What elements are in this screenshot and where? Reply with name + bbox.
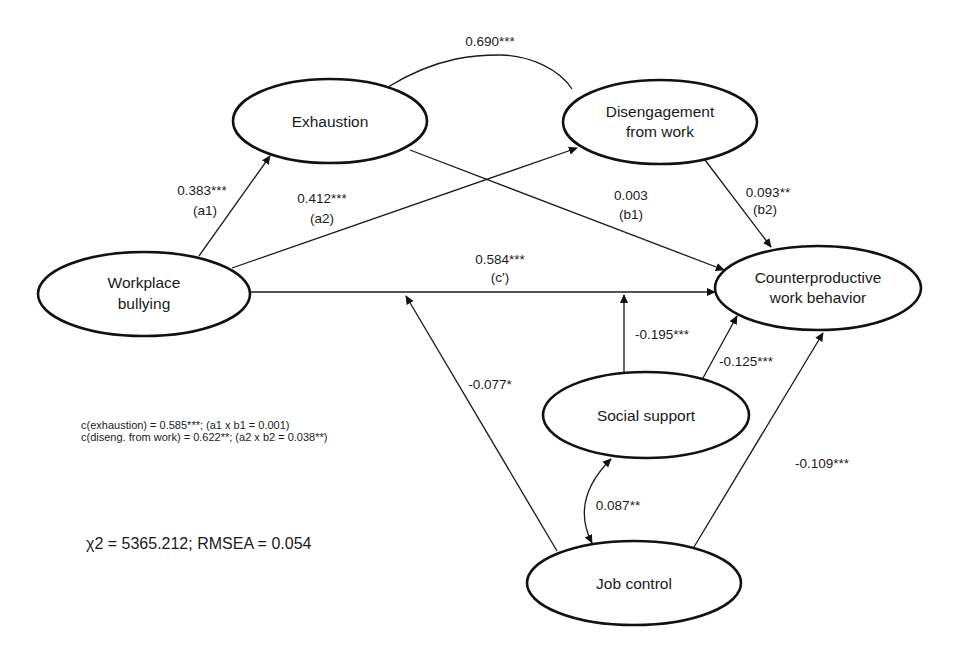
edge-a2-bullying-to-disengagement — [232, 148, 577, 268]
node-exhaustion: Exhaustion — [233, 79, 427, 163]
node-job-control: Job control — [527, 541, 741, 625]
label-c-prime-tag: (c') — [491, 270, 509, 285]
node-bullying-label-line1: Workplace — [108, 274, 181, 291]
node-social-support: Social support — [543, 372, 749, 458]
note-indirect-disengagement: c(diseng. from work) = 0.622**; (a2 x b2… — [81, 431, 327, 443]
node-workplace-bullying: Workplace bullying — [38, 252, 250, 336]
label-b1-coef: 0.003 — [614, 188, 648, 203]
label-a2-tag: (a2) — [310, 211, 334, 226]
label-b1-tag: (b1) — [619, 207, 643, 222]
label-job-control-moderation-coef: -0.077* — [468, 377, 512, 392]
edge-job-control-moderation — [406, 296, 557, 551]
node-exhaustion-label: Exhaustion — [292, 113, 369, 130]
label-social-support-cwb-coef: -0.125*** — [719, 354, 774, 369]
model-fit-statistics: χ2 = 5365.212; RMSEA = 0.054 — [86, 535, 312, 552]
label-c-prime-coef: 0.584*** — [475, 252, 525, 267]
edge-b1-exhaustion-to-cwb — [410, 150, 724, 270]
node-cwb: Counterproductive work behavior — [715, 246, 921, 330]
note-indirect-exhaustion: c(exhaustion) = 0.585***; (a1 x b1 = 0.0… — [81, 419, 290, 431]
node-cwb-label-line1: Counterproductive — [755, 269, 882, 286]
label-a1-tag: (a1) — [193, 203, 217, 218]
label-exhaustion-disengagement-coef: 0.690*** — [465, 34, 515, 49]
label-a1-coef: 0.383*** — [177, 183, 227, 198]
label-social-support-moderation-coef: -0.195*** — [635, 327, 690, 342]
label-b2-tag: (b2) — [753, 202, 777, 217]
node-job-control-label: Job control — [596, 575, 672, 592]
label-job-control-cwb-coef: -0.109*** — [795, 456, 850, 471]
node-bullying-label-line2: bullying — [118, 295, 171, 312]
label-a2-coef: 0.412*** — [297, 191, 347, 206]
edge-exhaustion-disengagement-covariance — [388, 55, 572, 89]
node-social-support-label: Social support — [597, 407, 696, 424]
label-b2-coef: 0.093** — [746, 185, 791, 200]
path-diagram: Exhaustion Disengagement from work Workp… — [0, 0, 958, 654]
node-disengagement-label-line2: from work — [626, 123, 694, 140]
node-cwb-label-line2: work behavior — [769, 289, 867, 306]
node-disengagement: Disengagement from work — [563, 80, 757, 164]
node-disengagement-label-line1: Disengagement — [606, 103, 715, 120]
label-ss-jc-covariance-coef: 0.087** — [596, 498, 641, 513]
